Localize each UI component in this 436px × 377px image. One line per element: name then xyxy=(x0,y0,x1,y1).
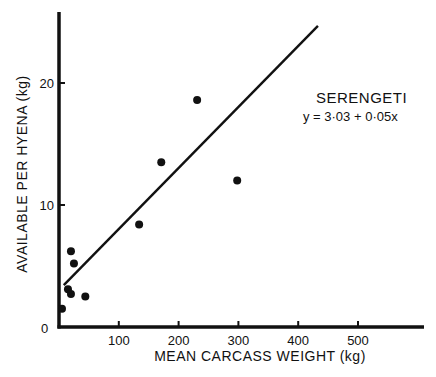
y-tick-label: 20 xyxy=(40,76,54,91)
annotation-equation: y = 3·03 + 0·05x xyxy=(303,109,398,124)
data-point xyxy=(81,293,89,301)
data-points xyxy=(58,96,241,313)
data-point xyxy=(157,158,165,166)
x-tick-label: 400 xyxy=(287,333,309,348)
data-point xyxy=(135,221,143,229)
annotation-title: SERENGETI xyxy=(316,89,407,106)
x-axis-label: MEAN CARCASS WEIGHT (kg) xyxy=(154,348,366,364)
y-origin-label: 0 xyxy=(41,321,48,336)
data-point xyxy=(67,290,75,298)
data-point xyxy=(58,305,66,313)
data-point xyxy=(70,260,78,268)
x-tick-label: 500 xyxy=(347,333,369,348)
scatter-chart: 1002003004005001020 0 MEAN CARCASS WEIGH… xyxy=(0,0,436,377)
y-tick-label: 10 xyxy=(40,198,54,213)
regression-line-path xyxy=(64,26,318,285)
data-point xyxy=(67,247,75,255)
x-tick-label: 300 xyxy=(228,333,250,348)
y-axis-label: AVAILABLE PER HYENA (kg) xyxy=(14,75,30,272)
data-point xyxy=(233,177,241,185)
regression-line xyxy=(64,26,318,285)
x-tick-label: 200 xyxy=(168,333,190,348)
axes xyxy=(58,12,425,329)
x-tick-label: 100 xyxy=(108,333,130,348)
data-point xyxy=(193,96,201,104)
